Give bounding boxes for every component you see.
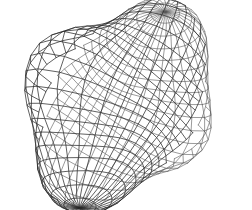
wireframe-figure-canvas: [0, 0, 252, 210]
mesh-line: [45, 163, 136, 190]
wireframe-mesh-svg: [0, 0, 252, 210]
mesh-line: [74, 26, 199, 102]
mesh-line: [84, 45, 210, 104]
mesh-line: [50, 31, 191, 118]
